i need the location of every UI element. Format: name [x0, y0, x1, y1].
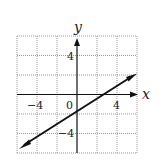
tick-x-4: 4: [113, 99, 120, 112]
tick-x-neg4: −4: [27, 99, 43, 112]
line-arrow-start-icon: [19, 140, 31, 150]
y-axis-label: y: [73, 19, 83, 35]
y-axis-arrow-icon: [74, 38, 80, 46]
tick-origin: 0: [66, 99, 73, 112]
tick-y-4: 4: [67, 50, 74, 63]
x-axis-label: x: [142, 86, 150, 102]
tick-y-neg4: −4: [58, 127, 74, 140]
coordinate-plane: x y −4 0 4 4 −4: [0, 0, 162, 164]
axes: [17, 42, 137, 153]
